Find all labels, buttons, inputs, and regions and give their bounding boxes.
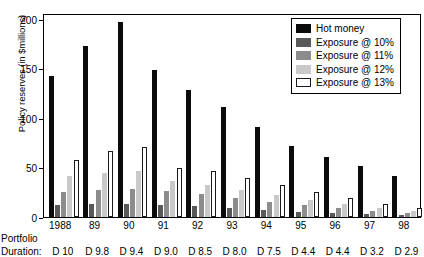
legend-item: Exposure @ 11% bbox=[296, 49, 394, 63]
bar-group bbox=[83, 15, 114, 217]
y-tick-label: 200 bbox=[0, 14, 37, 25]
bar bbox=[49, 76, 54, 217]
duration-cell: D 9.4 bbox=[114, 246, 148, 257]
bar bbox=[342, 204, 347, 217]
x-tick-label: 94 bbox=[261, 220, 272, 231]
legend-label: Exposure @ 10% bbox=[316, 37, 394, 48]
y-tick-mark bbox=[39, 218, 43, 219]
bar bbox=[280, 185, 285, 217]
duration-cell: D 9.0 bbox=[149, 246, 183, 257]
legend-swatch-icon bbox=[296, 51, 311, 60]
bar-group bbox=[118, 15, 149, 217]
bar bbox=[274, 195, 279, 217]
bar bbox=[233, 198, 238, 217]
x-tick-label: 92 bbox=[192, 220, 203, 231]
bar bbox=[330, 213, 335, 217]
bar-group bbox=[186, 15, 217, 217]
bar bbox=[358, 166, 363, 217]
bar bbox=[199, 194, 204, 217]
duration-label: Duration: bbox=[1, 246, 42, 257]
bar bbox=[302, 205, 307, 217]
bar bbox=[383, 204, 388, 217]
bar bbox=[411, 211, 416, 217]
bar bbox=[192, 206, 197, 217]
x-tick-label: 96 bbox=[330, 220, 341, 231]
bar-chart-figure: Policy reserves (in $millions) 050100150… bbox=[0, 0, 424, 257]
x-tick-label: 89 bbox=[89, 220, 100, 231]
bar bbox=[314, 192, 319, 217]
legend-swatch-icon bbox=[296, 65, 311, 74]
duration-cell: D 4.4 bbox=[320, 246, 354, 257]
bar bbox=[130, 189, 135, 217]
bar bbox=[96, 190, 101, 217]
x-tick-label: 95 bbox=[295, 220, 306, 231]
legend-item: Exposure @ 13% bbox=[296, 76, 394, 90]
bar bbox=[289, 146, 294, 217]
bar bbox=[142, 147, 147, 217]
bar bbox=[83, 46, 88, 217]
bar-group bbox=[152, 15, 183, 217]
bar bbox=[308, 200, 313, 217]
bar bbox=[136, 171, 141, 217]
bar bbox=[245, 178, 250, 217]
x-tick-label: 90 bbox=[123, 220, 134, 231]
bar bbox=[399, 215, 404, 217]
bar bbox=[267, 202, 272, 217]
bar bbox=[124, 204, 129, 217]
legend-swatch-icon bbox=[296, 38, 311, 47]
x-tick-label: 93 bbox=[226, 220, 237, 231]
bar bbox=[158, 205, 163, 217]
bar bbox=[186, 90, 191, 217]
x-tick-label: 91 bbox=[158, 220, 169, 231]
bar bbox=[102, 173, 107, 217]
bar bbox=[392, 176, 397, 217]
duration-cell: D 2.9 bbox=[389, 246, 423, 257]
x-tick-label: 98 bbox=[398, 220, 409, 231]
bar bbox=[364, 214, 369, 217]
duration-cell: D 8.5 bbox=[183, 246, 217, 257]
bar bbox=[89, 204, 94, 217]
legend-swatch-icon bbox=[296, 24, 311, 33]
y-tick-label: 150 bbox=[0, 64, 37, 75]
bar bbox=[405, 213, 410, 217]
y-tick-label: 100 bbox=[0, 113, 37, 124]
legend-label: Exposure @ 12% bbox=[316, 64, 394, 75]
bar bbox=[324, 157, 329, 217]
duration-cell: D 7.5 bbox=[252, 246, 286, 257]
bar bbox=[205, 185, 210, 217]
duration-cell: D 10 bbox=[46, 246, 80, 257]
bar bbox=[261, 210, 266, 217]
bar bbox=[118, 22, 123, 217]
legend-item: Hot money bbox=[296, 22, 394, 36]
y-tick-label: 50 bbox=[0, 163, 37, 174]
bar-group bbox=[49, 15, 80, 217]
bar bbox=[74, 160, 79, 217]
bar bbox=[55, 205, 60, 217]
x-tick-label: 1988 bbox=[49, 220, 71, 231]
bar bbox=[370, 211, 375, 217]
legend-label: Exposure @ 13% bbox=[316, 77, 394, 88]
x-tick-label: 97 bbox=[364, 220, 375, 231]
duration-cell: D 3.2 bbox=[355, 246, 389, 257]
duration-cell: D 4.4 bbox=[286, 246, 320, 257]
bar-group bbox=[255, 15, 286, 217]
duration-cell: D 9.8 bbox=[80, 246, 114, 257]
bar bbox=[296, 212, 301, 217]
legend-label: Exposure @ 11% bbox=[316, 50, 393, 61]
bar bbox=[152, 70, 157, 217]
bar bbox=[177, 168, 182, 218]
bar bbox=[61, 192, 66, 217]
bar bbox=[170, 181, 175, 217]
bar bbox=[211, 171, 216, 217]
y-tick-label: 0 bbox=[0, 213, 37, 224]
bar-group bbox=[221, 15, 252, 217]
legend-item: Exposure @ 12% bbox=[296, 63, 394, 77]
bar bbox=[108, 151, 113, 217]
bar bbox=[67, 176, 72, 217]
bar bbox=[164, 191, 169, 217]
bar bbox=[336, 208, 341, 217]
bar bbox=[227, 208, 232, 217]
bar bbox=[348, 198, 353, 217]
bar bbox=[377, 208, 382, 217]
legend-label: Hot money bbox=[316, 23, 364, 34]
